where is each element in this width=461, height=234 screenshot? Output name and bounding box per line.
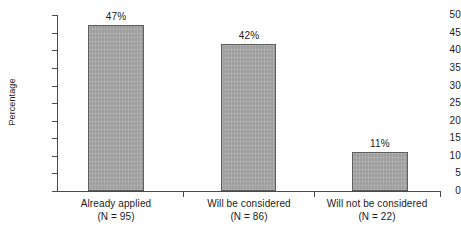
y-axis-line <box>57 15 58 192</box>
category-count-1: (N = 95) <box>56 210 176 223</box>
x-axis-category-label-2: Will be considered (N = 86) <box>189 197 309 223</box>
bar-value-label-will-be-considered: 42% <box>219 30 279 41</box>
y-axis-tick-35 <box>52 68 57 69</box>
y-axis-tick-label-15: 15 <box>427 133 461 143</box>
y-axis-tick-label-40: 40 <box>427 45 461 55</box>
x-axis-category-label-3: Will not be considered (N = 22) <box>310 197 444 223</box>
y-axis-tick-15 <box>52 138 57 139</box>
y-axis-tick-10 <box>52 156 57 157</box>
y-axis-tick-5 <box>52 173 57 174</box>
y-axis-tick-label-35: 35 <box>427 63 461 73</box>
x-axis-category-label-1: Already applied (N = 95) <box>56 197 176 223</box>
y-axis-tick-20 <box>52 121 57 122</box>
y-axis-tick-50 <box>52 15 57 16</box>
y-axis-tick-25 <box>52 103 57 104</box>
y-axis-tick-40 <box>52 50 57 51</box>
y-axis-tick-label-10: 10 <box>427 151 461 161</box>
y-axis-tick-label-30: 30 <box>427 81 461 91</box>
y-axis-tick-label-45: 45 <box>427 28 461 38</box>
y-axis-title: Percentage <box>7 66 17 138</box>
category-name-1: Already applied <box>81 198 151 209</box>
bar-value-label-already-applied: 47% <box>86 11 146 22</box>
bar-will-be-considered[interactable] <box>221 44 276 191</box>
category-count-2: (N = 86) <box>189 210 309 223</box>
y-axis-tick-label-20: 20 <box>427 116 461 126</box>
y-axis-tick-label-5: 5 <box>427 168 461 178</box>
category-count-3: (N = 22) <box>310 210 444 223</box>
category-name-3: Will not be considered <box>327 198 428 209</box>
y-axis-tick-30 <box>52 86 57 87</box>
y-axis-tick-label-25: 25 <box>427 98 461 108</box>
bar-chart: 0 5 10 15 20 25 30 35 40 45 50 Percentag… <box>0 0 461 234</box>
y-axis-tick-45 <box>52 33 57 34</box>
category-name-2: Will be considered <box>207 198 291 209</box>
x-axis-line <box>57 191 441 192</box>
bar-already-applied[interactable] <box>88 25 144 191</box>
bar-value-label-will-not-be-considered: 11% <box>350 138 410 149</box>
y-axis-tick-label-50: 50 <box>427 10 461 20</box>
x-axis-separator-tick-1 <box>183 192 184 197</box>
bar-will-not-be-considered[interactable] <box>352 152 408 191</box>
